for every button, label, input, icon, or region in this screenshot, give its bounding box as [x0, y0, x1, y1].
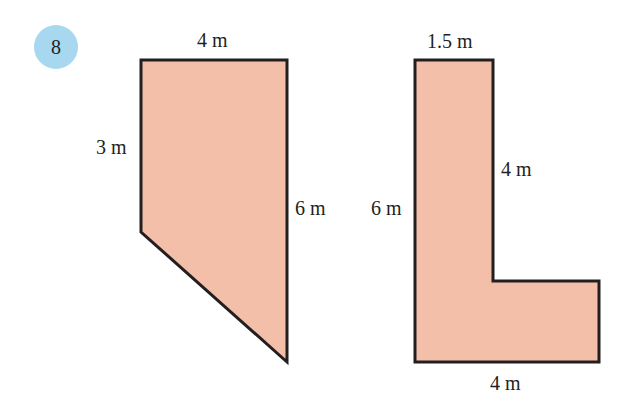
l-shape-inner-label: 4 m: [501, 159, 532, 179]
l-shape-left-label: 6 m: [371, 198, 402, 218]
trapezium-shape: [141, 60, 287, 362]
l-shape-top-label: 1.5 m: [427, 31, 473, 51]
trapezium-top-label: 4 m: [197, 30, 228, 50]
diagram-canvas: 8 4 m 3 m 6 m 1.5 m 4 m 6 m 4 m: [0, 0, 638, 412]
trapezium-right-label: 6 m: [295, 198, 326, 218]
l-shape-bottom-label: 4 m: [490, 373, 521, 393]
trapezium-left-label: 3 m: [96, 137, 127, 157]
l-shape: [415, 60, 599, 362]
